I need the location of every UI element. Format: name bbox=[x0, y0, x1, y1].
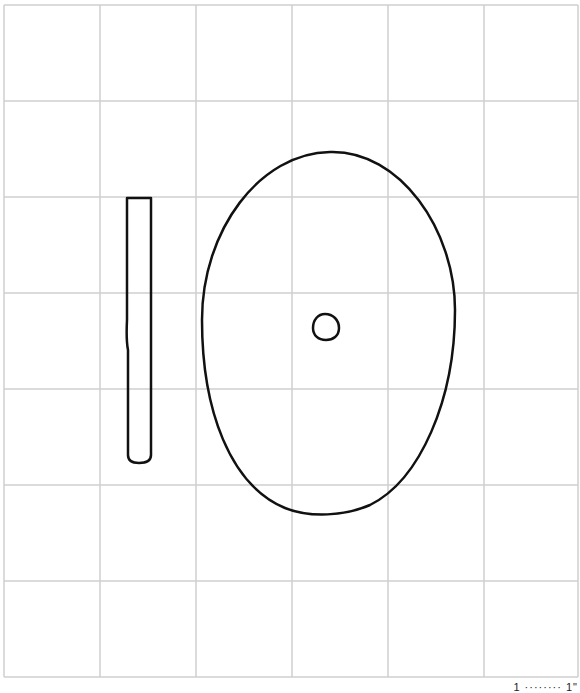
small-circle-shape bbox=[313, 314, 339, 340]
rod-shape bbox=[127, 198, 151, 463]
footer-scale-text: 1 ········ 1" bbox=[513, 681, 578, 693]
oval-shape bbox=[202, 152, 455, 515]
grid bbox=[4, 5, 578, 677]
